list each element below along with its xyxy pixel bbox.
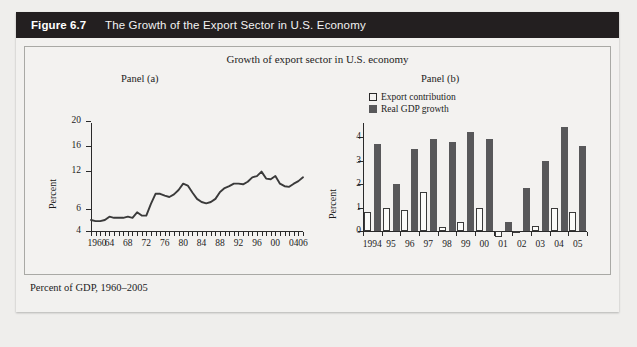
bar-export-95 [383,208,390,231]
bar-gdp-98 [449,142,456,231]
panel-b-legend: Export contribution Real GDP growth [369,91,456,115]
panel-b-xtick-label: 95 [382,239,400,249]
panel-b-xtick-label: 04 [550,239,568,249]
bar-gdp-00 [486,139,493,231]
legend-label-export: Export contribution [381,92,456,102]
bar-export-97 [420,192,427,231]
figure-page: Figure 6.7 The Growth of the Export Sect… [0,0,637,347]
figure-title: The Growth of the Export Sector in U.S. … [105,19,366,31]
bar-gdp-95 [393,184,400,231]
bar-export-03 [532,226,539,231]
panel-b-xtick-label: 01 [494,239,512,249]
panel-a-chart: Percent 46121620196064687276808488929600… [45,91,315,266]
figure-caption: Percent of GDP, 1960–2005 [30,282,148,293]
gdp-swatch-icon [369,105,377,113]
panel-b-xtick-label: 99 [457,239,475,249]
panel-a-label: Panel (a) [121,73,159,84]
panel-b-xtick-label: 02 [513,239,531,249]
bar-gdp-04 [561,127,568,231]
legend-item-export: Export contribution [369,91,456,102]
figure-header: Figure 6.7 The Growth of the Export Sect… [16,12,619,38]
bar-export-01 [495,231,502,237]
figure-frame: Figure 6.7 The Growth of the Export Sect… [16,12,619,312]
bar-gdp-1994 [374,144,381,231]
export-swatch-icon [369,93,377,101]
bar-export-05 [569,212,576,231]
panel-b-ytick-label: 0 [335,225,361,235]
plot-container: Growth of export sector in U.S. economy … [24,46,611,275]
panel-b-ytick-label: 3 [335,155,361,165]
panel-b-xtick-label: 03 [531,239,549,249]
bar-gdp-03 [542,161,549,231]
panel-b-label: Panel (b) [421,73,459,84]
bar-gdp-96 [411,149,418,231]
bar-export-1994 [364,212,371,231]
panel-b-ytick-label: 2 [335,178,361,188]
bar-export-02 [513,231,520,233]
panel-b-ytick-label: 4 [335,131,361,141]
legend-item-gdp: Real GDP growth [369,103,456,114]
bar-export-96 [401,210,408,231]
figure-number: Figure 6.7 [31,19,105,31]
panel-a-line-series [91,172,303,221]
panel-b-xtick-label: 05 [569,239,587,249]
bar-gdp-97 [430,139,437,231]
panel-b-xtick-label: 98 [438,239,456,249]
bar-gdp-02 [523,188,530,231]
panel-b-xtick-label: 97 [419,239,437,249]
bar-export-04 [551,208,558,231]
panel-b-xtick-label: 96 [401,239,419,249]
panel-b-ytick-label: 1 [335,202,361,212]
bar-gdp-01 [505,222,512,231]
bar-export-00 [476,208,483,231]
chart-supertitle: Growth of export sector in U.S. economy [25,53,610,65]
bar-export-99 [457,222,464,231]
bar-gdp-99 [467,132,474,231]
panel-a-line-svg [45,91,315,266]
figure-body: Growth of export sector in U.S. economy … [16,38,619,312]
legend-label-gdp: Real GDP growth [381,104,449,114]
bar-gdp-05 [579,146,586,231]
panel-b-chart: Export contribution Real GDP growth Perc… [325,91,605,266]
panel-b-xtick-label: 00 [475,239,493,249]
bar-export-98 [439,227,446,231]
